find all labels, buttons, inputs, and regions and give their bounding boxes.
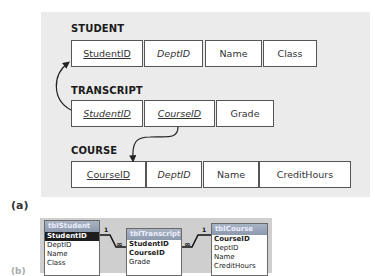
relationship-one-label: 1 — [202, 226, 206, 233]
part-b-label: (b) — [11, 266, 26, 276]
arrow-transcript-to-course — [133, 127, 178, 160]
relationship-many-label: ∞ — [184, 240, 191, 249]
access-relationship-lines — [40, 218, 272, 273]
relationship-one-label: 1 — [104, 226, 108, 233]
part-a-label: (a) — [11, 199, 28, 212]
relationship-many-label: ∞ — [116, 240, 123, 249]
arrow-transcript-to-student — [56, 63, 71, 110]
access-relationships-window: tblStudent StudentID DeptID Name Class t… — [40, 218, 272, 273]
